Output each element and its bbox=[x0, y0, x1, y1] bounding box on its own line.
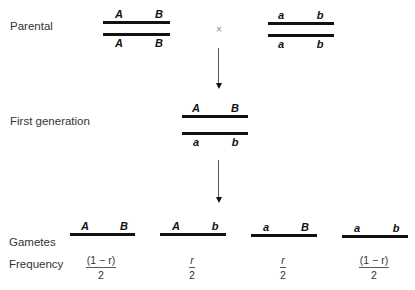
frequency-fraction: r 2 bbox=[189, 255, 195, 280]
allele: B bbox=[301, 221, 309, 233]
chromosome-line bbox=[103, 21, 170, 24]
arrow-head-icon bbox=[216, 83, 222, 89]
frequency-fraction: r 2 bbox=[280, 255, 286, 280]
chromosome-line bbox=[182, 132, 248, 135]
allele: a bbox=[278, 9, 284, 21]
chromosome-line bbox=[160, 233, 226, 236]
chromosome-line bbox=[268, 34, 334, 37]
frequency-fraction: (1 − r) 2 bbox=[86, 255, 116, 280]
frequency-fraction: (1 − r) 2 bbox=[359, 255, 389, 280]
allele: B bbox=[155, 37, 163, 49]
allele: A bbox=[115, 8, 123, 20]
gametes-label: Gametes bbox=[9, 236, 56, 248]
allele: a bbox=[193, 136, 199, 148]
fraction-numerator: (1 − r) bbox=[86, 255, 116, 268]
fraction-numerator: (1 − r) bbox=[359, 255, 389, 268]
allele: a bbox=[354, 222, 360, 234]
chromosome-line bbox=[182, 115, 248, 118]
chromosome-line bbox=[103, 33, 170, 36]
allele: B bbox=[231, 102, 239, 114]
allele: A bbox=[172, 220, 180, 232]
frequency-label: Frequency bbox=[9, 258, 63, 270]
arrow-down-icon bbox=[218, 48, 219, 84]
chromosome-line bbox=[70, 233, 135, 236]
arrow-head-icon bbox=[216, 197, 222, 203]
fraction-denominator: 2 bbox=[359, 268, 389, 281]
allele: B bbox=[120, 220, 128, 232]
fraction-numerator: r bbox=[280, 255, 286, 268]
fraction-denominator: 2 bbox=[86, 268, 116, 281]
allele: b bbox=[317, 38, 324, 50]
allele: b bbox=[393, 222, 400, 234]
chromosome-line bbox=[251, 234, 317, 237]
first-generation-label: First generation bbox=[10, 115, 90, 127]
fraction-numerator: r bbox=[189, 255, 195, 268]
fraction-denominator: 2 bbox=[280, 268, 286, 281]
arrow-down-icon bbox=[218, 160, 219, 198]
chromosome-line bbox=[268, 22, 334, 25]
allele: b bbox=[212, 220, 219, 232]
allele: A bbox=[115, 37, 123, 49]
chromosome-line bbox=[342, 235, 408, 238]
allele: A bbox=[192, 102, 200, 114]
allele: B bbox=[155, 8, 163, 20]
allele: A bbox=[81, 220, 89, 232]
parental-label: Parental bbox=[10, 20, 53, 32]
cross-symbol: × bbox=[216, 24, 222, 35]
allele: a bbox=[263, 221, 269, 233]
fraction-denominator: 2 bbox=[189, 268, 195, 281]
allele: b bbox=[232, 136, 239, 148]
allele: a bbox=[278, 38, 284, 50]
allele: b bbox=[317, 9, 324, 21]
